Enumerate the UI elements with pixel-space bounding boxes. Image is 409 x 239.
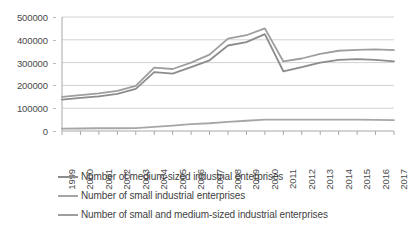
series-line-3 bbox=[62, 28, 394, 96]
series-line-1 bbox=[62, 34, 394, 99]
chart-legend: Number of medium-sized industrial enterp… bbox=[58, 168, 404, 225]
y-tick-mark bbox=[53, 85, 56, 86]
legend-label: Number of medium-sized industrial enterp… bbox=[81, 171, 283, 182]
y-tick-mark bbox=[53, 40, 56, 41]
y-tick-label: 100000 bbox=[17, 103, 48, 114]
y-tick-mark bbox=[53, 17, 56, 18]
legend-label: Number of small industrial enterprises bbox=[81, 190, 245, 201]
plot-area bbox=[62, 17, 394, 131]
legend-item[interactable]: Number of small industrial enterprises bbox=[58, 187, 404, 204]
y-tick-mark bbox=[53, 108, 56, 109]
y-tick-label: 300000 bbox=[17, 57, 48, 68]
legend-line-swatch bbox=[58, 214, 78, 216]
series-line-2 bbox=[62, 120, 394, 129]
series-lines bbox=[62, 17, 394, 131]
y-tick-mark bbox=[53, 131, 56, 132]
legend-line-swatch bbox=[58, 195, 78, 197]
y-tick-label: 500000 bbox=[17, 12, 48, 23]
legend-item[interactable]: Number of medium-sized industrial enterp… bbox=[58, 168, 404, 185]
y-tick-label: 0 bbox=[43, 126, 48, 137]
y-axis: 0100000200000300000400000500000 bbox=[0, 17, 56, 131]
y-tick-label: 400000 bbox=[17, 34, 48, 45]
legend-item[interactable]: Number of small and medium-sized industr… bbox=[58, 206, 404, 223]
legend-label: Number of small and medium-sized industr… bbox=[81, 209, 328, 220]
y-tick-label: 200000 bbox=[17, 80, 48, 91]
y-tick-mark bbox=[53, 63, 56, 64]
legend-line-swatch bbox=[58, 176, 78, 178]
